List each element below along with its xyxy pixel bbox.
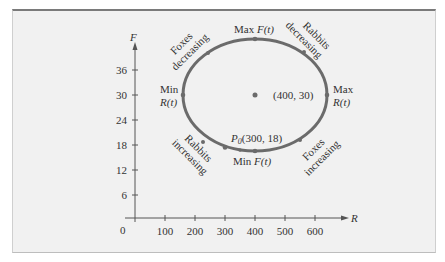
svg-text:100: 100	[157, 225, 174, 237]
svg-text:24: 24	[116, 114, 128, 126]
r-axis-arrow-icon	[341, 216, 349, 221]
max-r-label-line2: R(t)	[332, 96, 350, 109]
max-r-label-line1: Max	[333, 83, 354, 95]
svg-text:12: 12	[116, 164, 127, 176]
equilibrium-label: (400, 30)	[273, 89, 314, 102]
r-tick-labels: 100 200 300 400 500 600	[157, 225, 324, 237]
svg-text:500: 500	[277, 225, 294, 237]
p0-point	[223, 145, 228, 150]
origin-label: 0	[120, 224, 126, 236]
r-axis-label: R	[350, 212, 358, 224]
svg-text:36: 36	[116, 64, 128, 76]
equilibrium-point	[253, 93, 258, 98]
svg-text:30: 30	[116, 89, 128, 101]
min-r-label-line1: Min	[160, 83, 179, 95]
foxes-increasing-label: Foxes increasing	[293, 129, 342, 178]
f-axis-label: F	[129, 31, 137, 43]
svg-text:6: 6	[122, 189, 128, 201]
svg-text:200: 200	[187, 225, 204, 237]
p0-label: P0(300, 18)	[230, 132, 282, 146]
svg-text:400: 400	[247, 225, 264, 237]
rabbits-decreasing-label: Rabbits decreasing	[283, 10, 334, 61]
f-axis-arrow-icon	[133, 42, 138, 50]
foxes-decreasing-label: Foxes decreasing	[160, 22, 211, 73]
predator-prey-diagram: F R 0 36 30 24 18 12 6 100 200 300 400 5…	[0, 0, 445, 262]
svg-text:18: 18	[116, 139, 128, 151]
max-f-label: Max F(t)	[234, 23, 274, 36]
svg-text:300: 300	[217, 225, 234, 237]
min-r-point	[181, 93, 186, 98]
max-r-point	[325, 93, 330, 98]
rabbits-increasing-label: Rabbits increasing	[170, 128, 219, 177]
min-f-label: Min F(t)	[233, 155, 272, 168]
max-f-point	[253, 37, 258, 42]
svg-text:600: 600	[307, 225, 324, 237]
f-tick-labels: 36 30 24 18 12 6	[116, 64, 128, 201]
min-f-point	[253, 149, 258, 154]
min-r-label-line2: R(t)	[159, 96, 177, 109]
